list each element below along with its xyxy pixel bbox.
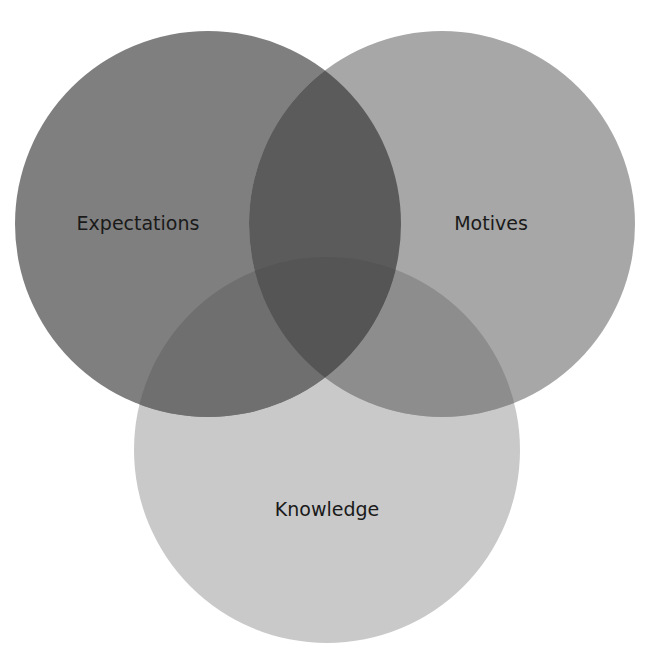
motives-label: Motives bbox=[454, 212, 528, 234]
knowledge-label: Knowledge bbox=[275, 498, 379, 520]
venn-diagram: Expectations Motives Knowledge bbox=[0, 0, 650, 654]
expectations-label: Expectations bbox=[77, 212, 200, 234]
